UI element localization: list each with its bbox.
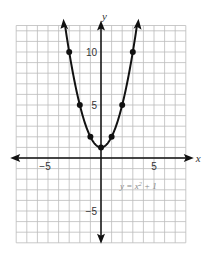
equation-lhs: y = x: [119, 181, 139, 191]
data-point: [98, 144, 104, 150]
data-point: [109, 134, 115, 140]
x-axis-label: x: [195, 152, 201, 164]
y-axis-label: y: [101, 10, 107, 22]
parabola-graph: −55105−5 x y y = x2 + 1: [0, 0, 202, 257]
x-tick-label: −5: [39, 161, 51, 172]
data-point: [130, 49, 136, 55]
y-tick-label: 5: [91, 100, 97, 111]
data-point: [66, 49, 72, 55]
data-point: [77, 102, 83, 108]
tick-labels: −55105−5: [39, 47, 157, 217]
equation-rhs: + 1: [142, 181, 157, 191]
y-tick-label: 10: [86, 47, 98, 58]
y-tick-label: −5: [86, 206, 98, 217]
data-point: [119, 102, 125, 108]
equation-label: y = x2 + 1: [119, 181, 157, 191]
data-point: [87, 134, 93, 140]
x-tick-label: 5: [151, 161, 157, 172]
